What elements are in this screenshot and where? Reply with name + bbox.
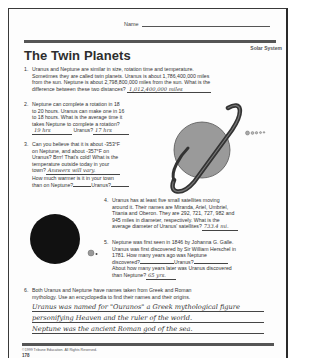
top-divider-bar bbox=[24, 40, 276, 43]
question-text: 1781. How many years ago was Neptune bbox=[104, 252, 290, 259]
question-text: to 18 hours. What is the average time it bbox=[24, 114, 154, 121]
question-number: 6. bbox=[24, 287, 32, 294]
question-text: Uranus was first discovered by Sir Willi… bbox=[104, 246, 290, 253]
uranus-moons-icon bbox=[245, 129, 269, 137]
answer-line-3[interactable]: Neptune was the ancient Roman god of the… bbox=[32, 325, 264, 334]
question-text: How much warmer is it in your town bbox=[24, 175, 154, 182]
answer-field-town[interactable]: Answers will vary. bbox=[46, 167, 120, 175]
uranus-label: Uranus? bbox=[91, 182, 111, 188]
question-text: to 20 hours. Uranus can make one in 16 bbox=[24, 108, 154, 115]
question-4: 4.Uranus has at least five small satelli… bbox=[104, 197, 290, 231]
answer-field[interactable]: 65 yrs. bbox=[146, 272, 176, 280]
question-text: from the sun. Neptune is about 2,798,800… bbox=[24, 79, 274, 86]
question-text: Sometimes they are called twin planets. … bbox=[24, 73, 274, 80]
neptune-label: than on Neptune? bbox=[32, 182, 73, 188]
question-text: Neptune can complete a rotation in 18 bbox=[32, 101, 120, 107]
question-text: average diameter of Uranus' satellites? bbox=[112, 223, 202, 229]
question-text: Can you believe that it is about -353°F bbox=[32, 141, 120, 147]
page-number: 178 bbox=[22, 353, 30, 358]
bottom-divider-bar bbox=[22, 343, 274, 346]
question-5: 5.Neptune was first seen in 1846 by Joha… bbox=[104, 239, 290, 280]
question-text: takes Neptune to complete a rotation? bbox=[24, 121, 154, 128]
question-text: Titania and Oberon. They are 292, 721, 7… bbox=[104, 210, 290, 217]
answer-line-2[interactable]: personifying Heaven and the ruler of the… bbox=[32, 314, 264, 323]
question-text: on Neptune, and about -357°F on bbox=[24, 148, 154, 155]
than-label: than Neptune? bbox=[112, 272, 146, 278]
question-text: around it. Their names are Miranda, Arie… bbox=[104, 204, 290, 211]
answer-line-1[interactable]: Uranus was named for "Ouranos" a Greek m… bbox=[32, 303, 264, 312]
name-label: Name bbox=[124, 21, 139, 27]
question-text: difference between these two distances? bbox=[32, 86, 126, 92]
uranus-label: Uranus? bbox=[73, 127, 93, 133]
neptune-illustration-icon bbox=[28, 212, 84, 268]
answer-field[interactable]: 1,012,400,000 miles bbox=[127, 86, 211, 94]
question-6: 6.Both Uranus and Neptune have names tak… bbox=[24, 287, 290, 300]
question-text: 945 miles in diameter, respectively. Wha… bbox=[104, 217, 290, 224]
uranus-label: Uranus? bbox=[174, 259, 194, 265]
copyright-text: ©1999 Tribune Education. All Rights Rese… bbox=[22, 348, 97, 352]
page-title: The Twin Planets bbox=[24, 48, 131, 63]
answer-field-uranus[interactable] bbox=[194, 263, 228, 264]
answer-field[interactable]: 733.4 mi. bbox=[202, 223, 238, 231]
question-text: temperature outside today in your bbox=[24, 161, 154, 168]
name-field[interactable]: Name bbox=[124, 20, 270, 27]
question-text: Neptune was first seen in 1846 by Johann… bbox=[112, 239, 233, 245]
neptune-moons-icon bbox=[87, 249, 99, 257]
question-number: 4. bbox=[104, 197, 112, 204]
question-1: 1.Uranus and Neptune are similar in size… bbox=[24, 66, 274, 93]
question-number: 1. bbox=[24, 66, 32, 73]
question-number: 5. bbox=[104, 239, 112, 246]
answer-field-neptune[interactable] bbox=[140, 263, 174, 264]
question-text: Uranus? Brrr! That's cold! What is the bbox=[24, 154, 154, 161]
answer-field-uranus[interactable]: 17 hrs bbox=[93, 127, 129, 135]
town-label: town? bbox=[32, 167, 46, 173]
question-number: 3. bbox=[24, 141, 32, 148]
question-number: 2. bbox=[24, 101, 32, 108]
discovered-label: discovered? bbox=[112, 259, 140, 265]
question-text: About how many years later was Uranus di… bbox=[104, 265, 290, 272]
uranus-illustration-icon bbox=[160, 102, 250, 194]
question-3: 3.Can you believe that it is about -353°… bbox=[24, 141, 154, 188]
subject-label: Solar System bbox=[250, 45, 282, 51]
answer-field-neptune[interactable]: 19 hrs bbox=[32, 127, 72, 135]
question-2: 2.Neptune can complete a rotation in 18 … bbox=[24, 101, 154, 135]
question-text: Both Uranus and Neptune have names taken… bbox=[32, 287, 191, 293]
answer-field-uranus[interactable] bbox=[111, 186, 129, 187]
question-text: Uranus and Neptune are similar in size, … bbox=[32, 66, 194, 72]
question-text: Uranus has at least five small satellite… bbox=[112, 197, 220, 203]
answer-field-neptune[interactable] bbox=[73, 186, 91, 187]
name-input-line[interactable] bbox=[142, 20, 270, 27]
question-text: mythology. Use an encyclopedia to find t… bbox=[24, 294, 290, 301]
